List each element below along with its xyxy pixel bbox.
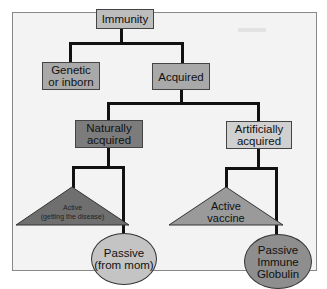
passive-mom-node: Passive (from mom) xyxy=(91,233,157,285)
naturally-acquired-node: Naturally acquired xyxy=(75,120,143,148)
artificially-acquired-node: Artificially acquired xyxy=(226,121,292,149)
active-vaccine-label: Active vaccine xyxy=(168,200,284,224)
active-vaccine-label-2: vaccine xyxy=(168,212,284,224)
genetic-label-1: Genetic xyxy=(51,64,91,76)
active-natural-label: Active (getting the disease) xyxy=(15,203,130,221)
genetic-label-2: or inborn xyxy=(48,76,93,88)
naturally-label-1: Naturally xyxy=(86,122,131,134)
passive-globulin-label-1: Passive xyxy=(258,244,298,256)
connector xyxy=(107,102,110,122)
passive-globulin-label-3: Globulin xyxy=(257,268,299,280)
connector xyxy=(107,148,110,168)
connector xyxy=(69,42,184,45)
connector xyxy=(72,166,125,169)
active-natural-triangle: Active (getting the disease) xyxy=(15,186,130,226)
connector xyxy=(72,166,75,188)
genetic-node: Genetic or inborn xyxy=(42,62,100,90)
connector xyxy=(225,167,278,170)
connector xyxy=(257,102,260,123)
connector xyxy=(257,149,260,169)
connector xyxy=(69,42,72,62)
immunity-node: Immunity xyxy=(96,9,154,29)
passive-globulin-node: Passive Immune Globulin xyxy=(244,234,312,289)
active-natural-label-1: Active xyxy=(15,203,130,212)
artificially-label-1: Artificially xyxy=(235,123,284,135)
connector xyxy=(107,102,260,105)
acquired-node: Acquired xyxy=(152,63,210,90)
immunity-label: Immunity xyxy=(102,13,149,25)
passive-mom-label-2: (from mom) xyxy=(94,259,153,271)
artificially-label-2: acquired xyxy=(237,135,281,147)
naturally-label-2: acquired xyxy=(87,134,131,146)
connector xyxy=(181,42,184,63)
active-natural-label-2: (getting the disease) xyxy=(15,212,130,221)
active-vaccine-triangle: Active vaccine xyxy=(168,186,284,226)
passive-globulin-label-2: Immune xyxy=(257,256,299,268)
active-vaccine-label-1: Active xyxy=(168,200,284,212)
faint-mark xyxy=(238,28,266,32)
passive-mom-label-1: Passive xyxy=(104,247,144,259)
acquired-label: Acquired xyxy=(158,71,203,83)
